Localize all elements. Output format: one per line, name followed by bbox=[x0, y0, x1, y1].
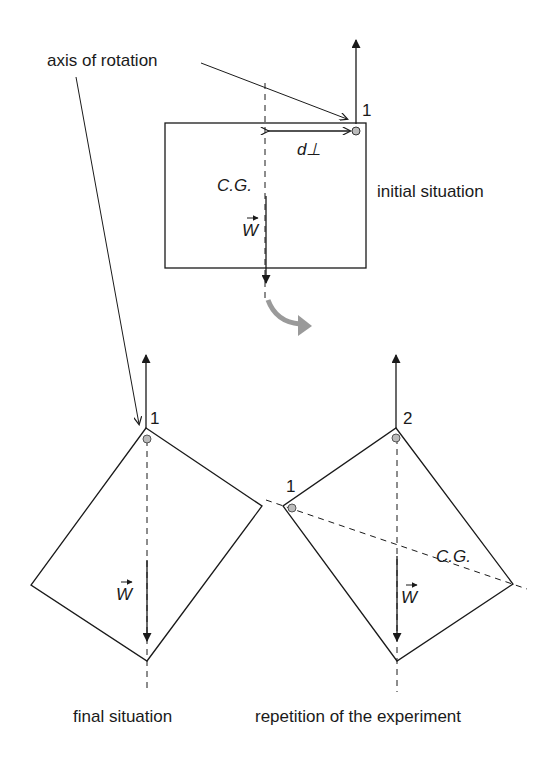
point-1-final-label: 1 bbox=[150, 409, 159, 428]
final-situation-label: final situation bbox=[73, 707, 172, 726]
repetition-label: repetition of the experiment bbox=[255, 707, 461, 726]
point-1-repetition-label: 1 bbox=[286, 477, 295, 496]
cg-initial-label: C.G. bbox=[217, 176, 252, 195]
pivot-point-1-initial bbox=[352, 127, 360, 135]
point-1-initial-label: 1 bbox=[362, 101, 371, 120]
axis-pointer-initial bbox=[201, 63, 347, 119]
axis-of-rotation-label: axis of rotation bbox=[47, 51, 158, 70]
pivot-point-1-final bbox=[143, 435, 151, 443]
rotation-diagram: axis of rotation initial situation C.G. … bbox=[0, 0, 551, 761]
weight-label-final: W bbox=[116, 585, 134, 604]
weight-vector-label-final: W bbox=[116, 582, 134, 604]
cg-repetition-label: C.G. bbox=[436, 547, 471, 566]
point-2-repetition-label: 2 bbox=[403, 409, 412, 428]
d-perp-label: d⊥ bbox=[297, 140, 321, 159]
pivot-point-1-repetition bbox=[288, 504, 296, 512]
axis-pointer-final bbox=[76, 77, 139, 424]
rotation-curved-arrow-icon bbox=[268, 300, 312, 336]
repetition-body bbox=[283, 428, 513, 661]
final-situation bbox=[31, 355, 262, 692]
pivot-point-2-repetition bbox=[392, 434, 400, 442]
initial-situation-label: initial situation bbox=[377, 182, 484, 201]
weight-label-repetition: W bbox=[401, 588, 419, 607]
weight-vector-label-initial: W bbox=[242, 218, 260, 240]
initial-situation bbox=[165, 40, 366, 302]
weight-label-initial: W bbox=[242, 221, 260, 240]
weight-vector-label-repetition: W bbox=[401, 585, 419, 607]
repetition-situation bbox=[266, 355, 527, 692]
